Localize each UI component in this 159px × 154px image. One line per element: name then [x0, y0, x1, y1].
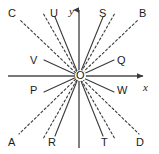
- y-axis-label: y: [69, 6, 74, 17]
- ray-line-B: [79, 19, 139, 76]
- ray-label-S: S: [99, 8, 106, 19]
- ray-line-dash-sse: [79, 76, 115, 139]
- ray-label-B: B: [139, 8, 146, 19]
- ray-line-C: [19, 19, 79, 76]
- ray-label-P: P: [30, 85, 37, 96]
- ray-label-U: U: [50, 8, 58, 19]
- ray-label-Q: Q: [117, 55, 126, 66]
- origin-label: O: [75, 70, 86, 81]
- ray-diagram-figure: C U S B V Q P W A R T D y x O: [0, 0, 159, 154]
- ray-line-A: [19, 76, 79, 134]
- ray-line-dash-nnw: [43, 13, 79, 76]
- ray-line-dash-ssw: [43, 76, 79, 139]
- ray-label-R: R: [48, 137, 56, 148]
- ray-label-C: C: [8, 8, 16, 19]
- x-axis-label: x: [143, 82, 148, 93]
- ray-label-A: A: [8, 137, 15, 148]
- ray-label-V: V: [30, 55, 37, 66]
- ray-label-D: D: [136, 137, 144, 148]
- ray-label-T: T: [101, 137, 108, 148]
- ray-line-D: [79, 76, 139, 134]
- ray-label-W: W: [117, 85, 127, 96]
- ray-line-dash-nne: [79, 13, 115, 76]
